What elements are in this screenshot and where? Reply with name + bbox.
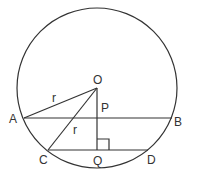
right-angle-marker: [97, 139, 109, 150]
label-q: Q: [93, 155, 102, 167]
radius-oa: [24, 88, 97, 118]
label-r-oc: r: [73, 124, 77, 136]
label-d: D: [147, 154, 156, 166]
label-p: P: [101, 102, 109, 114]
diagram-canvas: [0, 0, 198, 179]
label-c: C: [39, 154, 48, 166]
label-o: O: [93, 74, 102, 86]
label-b: B: [174, 116, 182, 128]
label-r-oa: r: [52, 92, 56, 104]
label-a: A: [9, 113, 17, 125]
